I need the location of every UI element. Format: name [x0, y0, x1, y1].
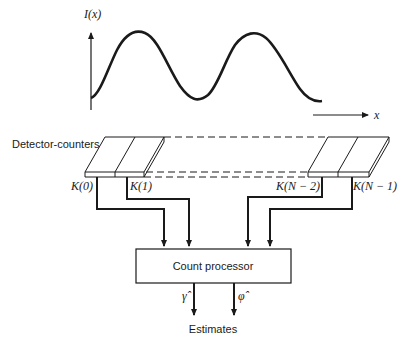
phi-hat-symbol: φ̂: [238, 289, 250, 303]
detector-array-continuation: [144, 137, 328, 177]
detector-counters-label: Detector-counters: [12, 138, 100, 150]
counter-label-kn1: K(N − 1): [352, 179, 397, 193]
counter-label-k0: K(0): [70, 179, 93, 193]
estimates-label: Estimates: [189, 323, 238, 335]
intensity-curve: [91, 32, 322, 102]
gamma-hat-symbol: γ̂: [182, 289, 192, 303]
counter-label-k1: K(1): [129, 179, 152, 193]
y-axis-label: I(x): [83, 7, 101, 21]
counter-label-kn2: K(N − 2): [275, 179, 320, 193]
diagram-canvas: I(x) x Detector-counters K(0) K(1) K(N −…: [0, 0, 406, 341]
x-axis-label: x: [373, 108, 380, 122]
count-processor-label: Count processor: [173, 260, 254, 272]
detector-right: [308, 137, 389, 177]
intensity-plot: I(x) x: [83, 7, 380, 122]
